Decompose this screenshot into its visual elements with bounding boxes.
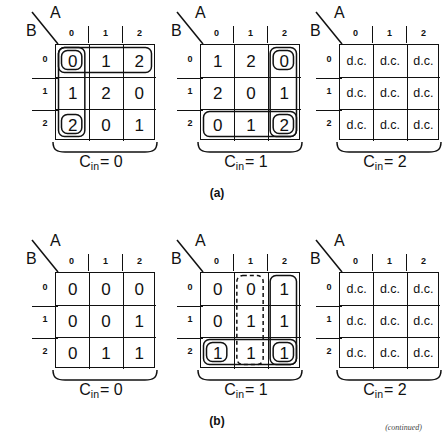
carry-caption: Cin= 2: [320, 382, 446, 400]
column-header-2: 2: [407, 256, 440, 266]
column-header-1: 1: [89, 28, 122, 38]
kmap-cell: d.c.: [407, 273, 440, 305]
kmap-cell: 0: [123, 273, 156, 305]
column-header-0: 0: [339, 28, 372, 38]
row-header-0: 0: [183, 282, 197, 292]
axis-label-a: A: [334, 233, 345, 249]
carry-symbol: C: [224, 381, 236, 398]
column-header-2: 2: [407, 28, 440, 38]
kmap-cell: 0: [56, 273, 89, 305]
column-divider-tick: [406, 26, 407, 43]
kmap-cell: 2: [268, 109, 301, 141]
kmap-cell: d.c.: [340, 273, 373, 305]
kmap-cell: 0: [201, 273, 234, 305]
row-header-1: 1: [183, 314, 197, 324]
kmap-cell: 1: [234, 109, 267, 141]
column-header-1: 1: [234, 28, 267, 38]
kmap-cell: 0: [234, 273, 267, 305]
continued-note: (continued): [385, 423, 422, 432]
column-header-2: 2: [123, 28, 156, 38]
axis-label-b: B: [310, 23, 321, 39]
kmap-cell: 1: [89, 337, 122, 369]
kmap-row-b: AB012012000001011Cin= 0AB012012001011111…: [0, 230, 434, 430]
axis-label-b: B: [171, 251, 182, 267]
kmap-cell: 0: [56, 337, 89, 369]
kmap-grid: 000001011: [55, 272, 155, 368]
kmap-cell: 1: [56, 77, 89, 109]
carry-caption: Cin= 1: [181, 154, 311, 172]
kmap-cell: 2: [234, 45, 267, 77]
column-divider-tick: [233, 26, 234, 43]
kmap-cell: 1: [268, 337, 301, 369]
carry-subscript: in: [375, 160, 383, 172]
row-header-2: 2: [322, 346, 336, 356]
kmap-cell: 1: [268, 77, 301, 109]
carry-symbol: C: [79, 381, 91, 398]
kmap-cell: d.c.: [340, 337, 373, 369]
kmap-cell: 0: [268, 45, 301, 77]
axis-label-a: A: [195, 233, 206, 249]
column-header-0: 0: [200, 256, 233, 266]
axis-label-b: B: [171, 23, 182, 39]
kmap-cell: 0: [201, 305, 234, 337]
kmap-cell: 0: [56, 45, 89, 77]
column-divider-tick: [233, 254, 234, 271]
kmap-cell: d.c.: [373, 305, 406, 337]
row-headers: 012: [38, 274, 56, 370]
carry-subscript: in: [375, 388, 383, 400]
kmap-cell: d.c.: [373, 337, 406, 369]
kmap-row-a: AB012012012120201Cin= 0AB012012120201012…: [0, 2, 434, 202]
kmap-cell: d.c.: [407, 109, 440, 141]
row-header-2: 2: [322, 118, 336, 128]
kmap-b-cin-2: AB012012d.c.d.c.d.c.d.c.d.c.d.c.d.c.d.c.…: [302, 230, 442, 408]
row-header-0: 0: [322, 54, 336, 64]
kmap-a-cin-1: AB012012120201012Cin= 1: [163, 2, 303, 180]
kmap-cell: d.c.: [373, 45, 406, 77]
kmap-cell: 1: [123, 305, 156, 337]
kmap-grid: 001011111: [200, 272, 300, 368]
kmap-grid: d.c.d.c.d.c.d.c.d.c.d.c.d.c.d.c.d.c.: [339, 272, 439, 368]
kmap-cell: 2: [123, 45, 156, 77]
row-header-0: 0: [38, 54, 52, 64]
brace-path: [337, 142, 441, 152]
kmap-cell: 1: [234, 337, 267, 369]
kmap-cell: 0: [201, 109, 234, 141]
carry-value: = 0: [100, 381, 123, 398]
row-header-1: 1: [322, 314, 336, 324]
row-header-0: 0: [183, 54, 197, 64]
carry-subscript: in: [91, 388, 99, 400]
column-divider-tick: [122, 254, 123, 271]
column-divider-tick: [88, 254, 89, 271]
column-header-0: 0: [55, 28, 88, 38]
kmap-cell: 1: [123, 109, 156, 141]
kmap-grid: 120201012: [200, 44, 300, 140]
kmap-cell: 0: [89, 109, 122, 141]
carry-caption: Cin= 0: [36, 154, 166, 172]
kmap-cell: 2: [56, 109, 89, 141]
column-divider-tick: [267, 26, 268, 43]
column-header-1: 1: [234, 256, 267, 266]
carry-symbol: C: [363, 381, 375, 398]
kmap-cell: d.c.: [373, 109, 406, 141]
kmap-grid: 012120201: [55, 44, 155, 140]
row-header-0: 0: [322, 282, 336, 292]
column-header-1: 1: [373, 28, 406, 38]
row-header-0: 0: [38, 282, 52, 292]
row-header-2: 2: [183, 346, 197, 356]
carry-caption: Cin= 1: [181, 382, 311, 400]
carry-symbol: C: [363, 153, 375, 170]
carry-value: = 1: [245, 381, 268, 398]
column-header-1: 1: [373, 256, 406, 266]
row-headers: 012: [38, 46, 56, 142]
carry-caption: Cin= 2: [320, 154, 446, 172]
row-headers: 012: [322, 46, 340, 142]
kmap-a-cin-2: AB012012d.c.d.c.d.c.d.c.d.c.d.c.d.c.d.c.…: [302, 2, 442, 180]
kmap-cell: 1: [268, 273, 301, 305]
carry-subscript: in: [236, 388, 244, 400]
column-header-0: 0: [200, 28, 233, 38]
row-header-2: 2: [38, 118, 52, 128]
axis-label-a: A: [334, 5, 345, 21]
brace-path: [198, 142, 302, 152]
column-divider-tick: [122, 26, 123, 43]
column-header-0: 0: [55, 256, 88, 266]
